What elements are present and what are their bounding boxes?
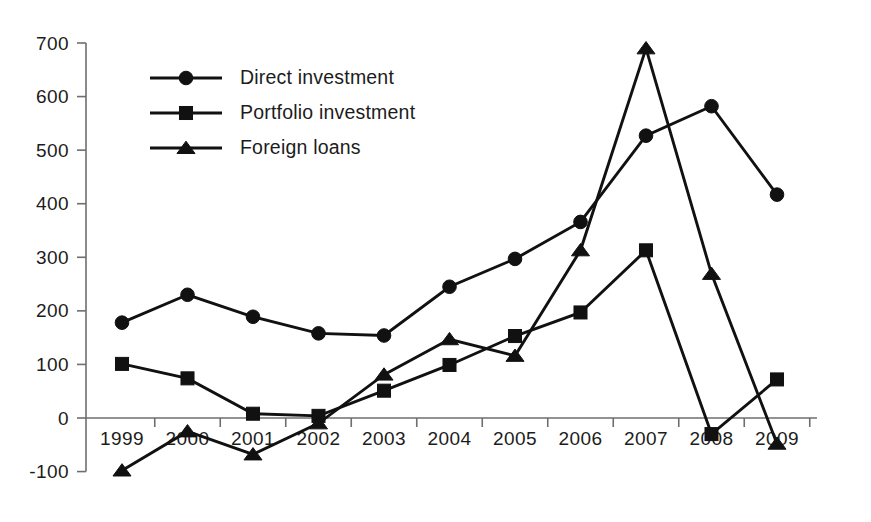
- square-marker: [181, 372, 194, 385]
- circle-marker: [115, 316, 129, 330]
- triangle-marker: [702, 267, 720, 279]
- square-marker: [508, 330, 521, 343]
- x-axis-tick-label: 1999: [100, 428, 144, 449]
- square-marker: [574, 306, 587, 319]
- circle-marker: [574, 215, 588, 229]
- y-axis-tick-label: 0: [58, 408, 69, 429]
- series-layer: [113, 42, 786, 476]
- circle-marker: [246, 310, 260, 324]
- triangle-marker: [637, 42, 655, 54]
- y-axis-tick-label: 400: [36, 193, 69, 214]
- y-axis-tick-label: 500: [36, 140, 69, 161]
- x-axis-tick-label: 2003: [362, 428, 406, 449]
- square-marker: [443, 358, 456, 371]
- square-marker: [770, 373, 783, 386]
- legend-item-label: Portfolio investment: [240, 101, 416, 123]
- circle-marker: [639, 129, 653, 143]
- triangle-marker: [440, 332, 458, 344]
- series-direct-investment: [115, 99, 784, 342]
- circle-marker: [443, 280, 457, 294]
- circle-marker: [508, 252, 522, 266]
- legend-item: Foreign loans: [150, 136, 361, 158]
- circle-marker: [705, 99, 719, 113]
- line-chart: -1000100200300400500600700 1999200020012…: [0, 0, 871, 522]
- y-axis-tick-label: 700: [36, 33, 69, 54]
- series-polyline: [122, 106, 777, 335]
- legend-item-label: Direct investment: [240, 66, 394, 88]
- series-foreign-loans: [113, 42, 786, 476]
- circle-marker: [181, 288, 195, 302]
- y-axis-tick-label: 600: [36, 86, 69, 107]
- triangle-marker: [571, 244, 589, 256]
- y-axis-tick-label: -100: [29, 461, 69, 482]
- legend-item-label: Foreign loans: [240, 136, 361, 158]
- square-marker: [705, 428, 718, 441]
- legend-item: Portfolio investment: [150, 101, 416, 123]
- chart-canvas: -1000100200300400500600700 1999200020012…: [0, 0, 871, 522]
- square-marker: [377, 384, 390, 397]
- y-axis-tick-label: 300: [36, 247, 69, 268]
- legend-item: Direct investment: [150, 66, 394, 88]
- y-axis-tick-label: 100: [36, 354, 69, 375]
- square-marker: [115, 357, 128, 370]
- x-axis-tick-label: 2004: [428, 428, 472, 449]
- x-axis-tick-label: 2006: [559, 428, 603, 449]
- square-marker: [179, 106, 192, 119]
- x-axis-tick-label: 2005: [493, 428, 537, 449]
- circle-marker: [770, 188, 784, 202]
- circle-marker: [179, 71, 193, 85]
- x-axis-tick-label: 2007: [624, 428, 668, 449]
- circle-marker: [312, 327, 326, 341]
- triangle-marker: [244, 448, 262, 460]
- circle-marker: [377, 329, 391, 343]
- square-marker: [246, 407, 259, 420]
- y-axis-tick-label: 200: [36, 300, 69, 321]
- square-marker: [639, 244, 652, 257]
- y-axis: -1000100200300400500600700: [29, 33, 86, 483]
- chart-legend: Direct investmentPortfolio investmentFor…: [150, 66, 416, 158]
